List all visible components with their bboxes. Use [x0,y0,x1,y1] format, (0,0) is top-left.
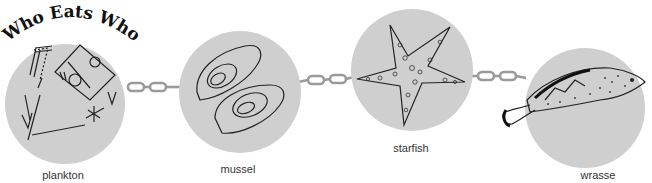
organism-starfish: starfish [351,9,473,154]
chain-icon [298,75,354,84]
organism-mussel: mussel [179,31,301,175]
organism-label: starfish [393,142,428,154]
organism-circle [351,9,473,131]
organism-label: wrasse [580,169,616,181]
diagram-title: Who Eats Who? [0,0,144,45]
chain-plankton-mussel [128,83,180,91]
chain-mussel-starfish [298,75,354,84]
organism-label: plankton [42,169,84,181]
organism-plankton: plankton [5,44,125,181]
organism-label: mussel [221,163,256,175]
chain-starfish-wrasse [472,72,526,80]
chain-icon [128,83,180,91]
chain-icon [472,72,526,80]
food-chain-diagram: Who Eats Who? plankton [0,0,652,183]
organism-wrasse: wrasse [503,48,645,181]
organism-circle [525,48,645,168]
